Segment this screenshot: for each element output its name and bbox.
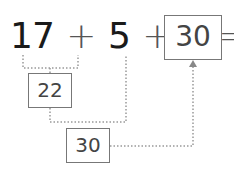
intermediate-box-30: 30 bbox=[66, 128, 110, 163]
bracket-17-5 bbox=[23, 55, 78, 68]
connector-30-result bbox=[110, 66, 193, 146]
arrow-up-icon bbox=[189, 60, 197, 67]
intermediate-box-22: 22 bbox=[28, 73, 72, 108]
